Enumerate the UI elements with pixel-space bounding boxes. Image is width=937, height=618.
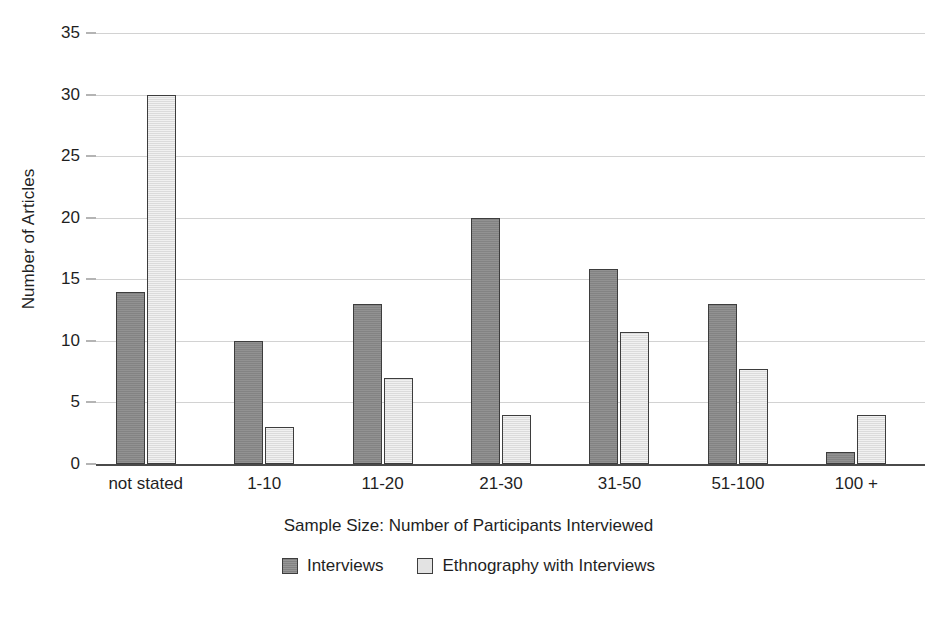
legend-label: Interviews	[307, 556, 384, 576]
x-tick-label: 21-30	[479, 474, 522, 494]
x-tick-label: not stated	[108, 474, 183, 494]
bar	[471, 218, 500, 464]
y-tick-mark	[86, 33, 96, 34]
chart-legend: InterviewsEthnography with Interviews	[0, 556, 937, 576]
bar	[502, 415, 531, 464]
gridline	[96, 279, 925, 280]
legend-swatch-icon	[282, 558, 298, 574]
y-tick-label: 10	[34, 331, 80, 351]
y-tick-mark	[86, 340, 96, 341]
y-tick-mark	[86, 94, 96, 95]
gridline	[96, 402, 925, 403]
x-axis-title-text: Sample Size: Number of Participants Inte…	[284, 516, 653, 535]
bar	[353, 304, 382, 464]
bar	[384, 378, 413, 464]
y-tick-mark	[86, 217, 96, 218]
bar	[265, 427, 294, 464]
y-tick-mark	[86, 279, 96, 280]
bar	[116, 292, 145, 464]
gridline	[96, 218, 925, 219]
legend-entry: Ethnography with Interviews	[417, 556, 655, 576]
x-tick-label: 1-10	[247, 474, 281, 494]
bar	[234, 341, 263, 464]
bar	[147, 95, 176, 464]
bar-chart: Number of Articles 05101520253035 not st…	[0, 0, 937, 618]
y-tick-label: 25	[34, 146, 80, 166]
y-tick-label: 15	[34, 269, 80, 289]
gridline	[96, 95, 925, 96]
plot-area	[96, 33, 925, 464]
x-tick-label: 100 +	[835, 474, 878, 494]
x-axis-line	[96, 464, 925, 466]
legend-swatch-icon	[417, 558, 433, 574]
x-tick-label: 51-100	[711, 474, 764, 494]
x-axis-title: Sample Size: Number of Participants Inte…	[0, 516, 937, 536]
x-tick-label: 31-50	[598, 474, 641, 494]
y-tick-mark	[86, 402, 96, 403]
bar	[708, 304, 737, 464]
y-tick-label: 0	[34, 454, 80, 474]
gridline	[96, 341, 925, 342]
gridline	[96, 156, 925, 157]
y-tick-label: 5	[34, 392, 80, 412]
x-axis-labels: not stated1-1011-2021-3031-5051-100100 +	[96, 474, 925, 504]
legend-label: Ethnography with Interviews	[442, 556, 655, 576]
bar	[826, 452, 855, 464]
gridline	[96, 33, 925, 34]
bar	[589, 269, 618, 464]
y-tick-label: 20	[34, 208, 80, 228]
legend-entry: Interviews	[282, 556, 384, 576]
bar	[620, 332, 649, 464]
bar	[739, 369, 768, 464]
y-tick-label: 30	[34, 85, 80, 105]
x-tick-label: 11-20	[361, 474, 403, 494]
y-tick-mark	[86, 464, 96, 465]
y-tick-mark	[86, 156, 96, 157]
bar	[857, 415, 886, 464]
y-tick-label: 35	[34, 23, 80, 43]
